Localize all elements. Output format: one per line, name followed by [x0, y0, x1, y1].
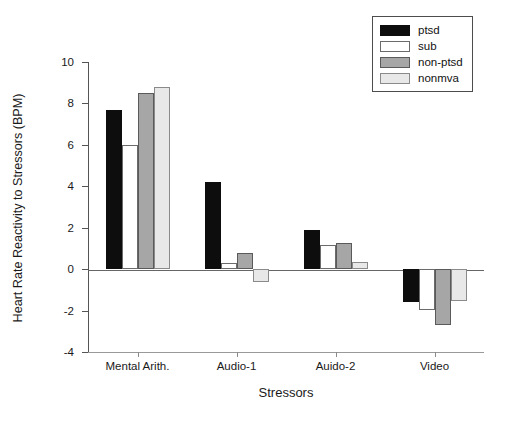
x-tick [237, 352, 238, 357]
legend-swatch-sub [380, 41, 410, 52]
y-axis-title: Heart Rate Reactivity to Stressors (BPM) [8, 60, 28, 356]
legend-label-sub: sub [418, 40, 437, 52]
legend-item-non-ptsd: non-ptsd [380, 55, 463, 69]
x-axis-title: Stressors [88, 385, 484, 400]
bar-sub-auido2 [320, 245, 336, 269]
y-tick [82, 62, 88, 63]
legend-label-ptsd: ptsd [418, 24, 440, 36]
legend-swatch-non-ptsd [380, 57, 410, 68]
legend-item-nonmva: nonmva [380, 71, 463, 85]
y-tick [82, 145, 88, 146]
y-tick-label: 2 [68, 222, 74, 234]
bar-nonmva-mentalarith [154, 87, 170, 269]
bar-ptsd-mentalarith [106, 110, 122, 270]
y-tick-label: 10 [61, 56, 74, 68]
y-tick [82, 269, 88, 270]
x-tick [336, 352, 337, 357]
bar-non-ptsd-auido2 [336, 243, 352, 269]
x-tick-label: Mental Arith. [106, 360, 170, 372]
y-tick [82, 103, 88, 104]
x-tick-label: Audio-1 [217, 360, 257, 372]
legend-swatch-ptsd [380, 25, 410, 36]
bar-non-ptsd-audio1 [237, 253, 253, 270]
y-tick [82, 352, 88, 353]
chart-legend: ptsd sub non-ptsd nonmva [372, 16, 473, 92]
y-axis-line [88, 62, 89, 352]
x-tick [138, 352, 139, 357]
y-tick-label: -4 [64, 346, 74, 358]
bar-ptsd-auido2 [304, 230, 320, 269]
legend-item-ptsd: ptsd [380, 23, 463, 37]
y-tick [82, 311, 88, 312]
y-tick-label: 0 [68, 263, 74, 275]
legend-label-nonmva: nonmva [418, 72, 459, 84]
bar-sub-audio1 [221, 263, 237, 269]
bar-nonmva-video [451, 269, 467, 301]
bottom-axis-line [88, 352, 484, 353]
bar-sub-mentalarith [122, 145, 138, 269]
y-tick [82, 228, 88, 229]
y-tick-label: 8 [68, 97, 74, 109]
x-tick-label: Video [420, 360, 449, 372]
chart-figure: Heart Rate Reactivity to Stressors (BPM)… [0, 0, 508, 421]
bar-ptsd-video [403, 269, 419, 302]
plot-area: 1086420-2-4 Mental Arith.Audio-1Auido-2V… [88, 62, 484, 352]
y-tick-label: 6 [68, 139, 74, 151]
x-tick-label: Auido-2 [316, 360, 356, 372]
y-tick-label: 4 [68, 180, 74, 192]
legend-item-sub: sub [380, 39, 463, 53]
y-axis-title-text: Heart Rate Reactivity to Stressors (BPM) [11, 94, 25, 323]
legend-label-non-ptsd: non-ptsd [418, 56, 463, 68]
bar-non-ptsd-mentalarith [138, 93, 154, 269]
bar-non-ptsd-video [435, 269, 451, 325]
bar-nonmva-auido2 [352, 262, 368, 269]
bar-sub-video [419, 269, 435, 309]
bar-nonmva-audio1 [253, 269, 269, 281]
y-tick-label: -2 [64, 305, 74, 317]
x-tick [435, 352, 436, 357]
legend-swatch-nonmva [380, 73, 410, 84]
bar-ptsd-audio1 [205, 182, 221, 269]
y-tick [82, 186, 88, 187]
